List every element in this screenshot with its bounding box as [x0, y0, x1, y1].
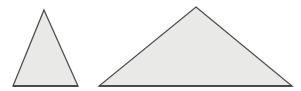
figure-canvas: [0, 0, 301, 91]
triangles-figure: [0, 0, 301, 91]
